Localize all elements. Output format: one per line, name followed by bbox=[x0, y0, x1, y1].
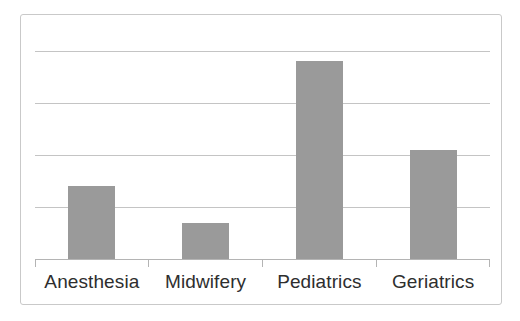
category-labels: Anesthesia Midwifery Pediatrics Geriatri… bbox=[35, 268, 490, 298]
axis-tick-2 bbox=[262, 260, 263, 267]
axis-tick-3 bbox=[376, 260, 377, 267]
bar-chart-figure: Anesthesia Midwifery Pediatrics Geriatri… bbox=[0, 0, 520, 321]
bar-geriatrics bbox=[410, 150, 457, 259]
category-label-anesthesia: Anesthesia bbox=[35, 268, 149, 298]
bar-pediatrics bbox=[296, 61, 343, 259]
axis-tick-0 bbox=[35, 260, 36, 267]
category-label-midwifery: Midwifery bbox=[149, 268, 263, 298]
category-label-geriatrics: Geriatrics bbox=[376, 268, 490, 298]
bar-midwifery bbox=[182, 223, 229, 259]
axis-tick-4 bbox=[489, 260, 490, 267]
category-label-pediatrics: Pediatrics bbox=[263, 268, 377, 298]
axis-tick-1 bbox=[148, 260, 149, 267]
bar-anesthesia bbox=[68, 186, 115, 259]
